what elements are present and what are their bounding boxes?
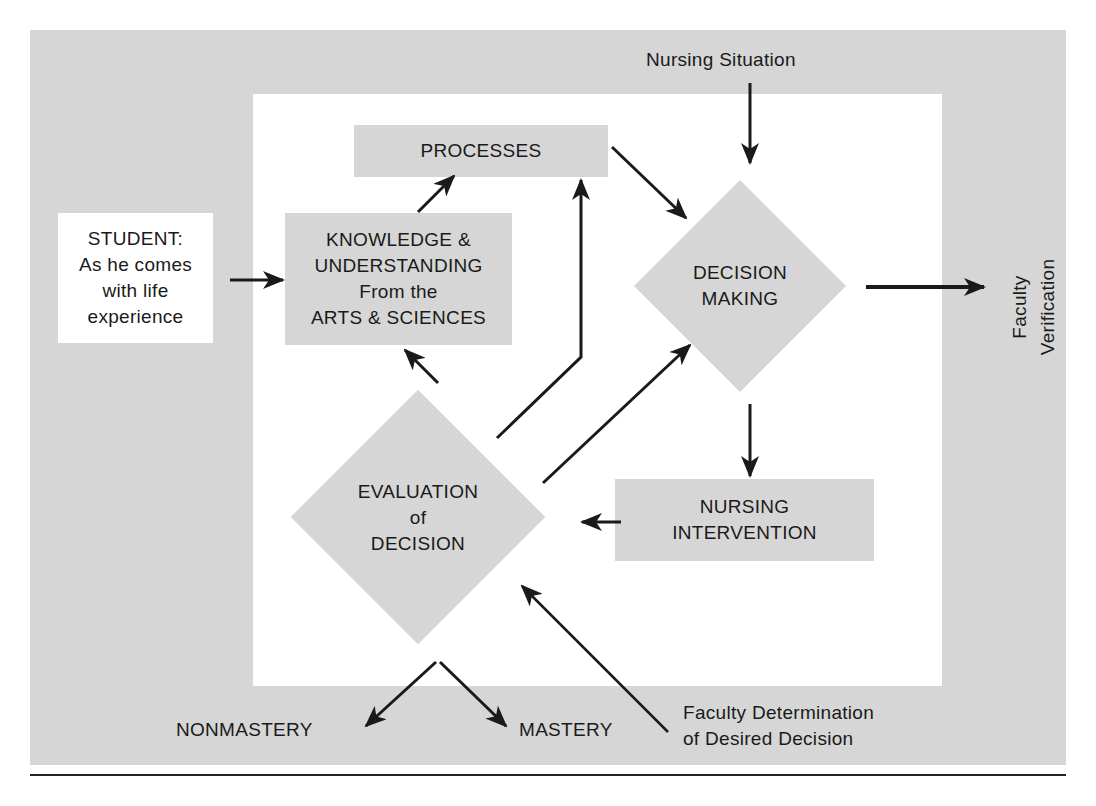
arrow-processes-decision (612, 147, 686, 218)
arrow-evaluation-decision (543, 345, 690, 483)
arrow-evaluation-knowledge (405, 350, 438, 383)
arrow-knowledge-processes (418, 176, 454, 212)
connector-arrows (0, 0, 1096, 806)
bottom-rule (30, 774, 1066, 776)
arrow-evaluation-processes (497, 180, 581, 438)
arrow-determination-evaluation (522, 586, 668, 732)
arrow-evaluation-nonmastery (366, 662, 436, 726)
arrow-evaluation-mastery (440, 662, 506, 726)
